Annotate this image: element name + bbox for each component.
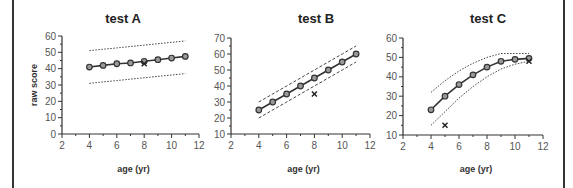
data-point <box>114 61 120 67</box>
x-tick-label: 2 <box>59 140 65 151</box>
y-tick-label: 60 <box>214 49 226 60</box>
charts-canvas: test A010203040506024681012age (yr)raw s… <box>0 0 573 188</box>
x-tick-label: 8 <box>484 141 490 152</box>
data-point <box>298 83 304 89</box>
y-tick-label: 50 <box>45 47 57 58</box>
data-point <box>256 107 262 113</box>
y-tick-label: 60 <box>45 31 57 42</box>
y-tick-label: 60 <box>386 33 398 44</box>
x-tick-label: 10 <box>509 141 521 152</box>
x-tick-label: 4 <box>256 140 262 151</box>
x-tick-label: 4 <box>428 141 434 152</box>
data-point <box>353 51 359 57</box>
y-tick-label: 40 <box>45 63 57 74</box>
data-point <box>284 91 290 97</box>
x-tick-label: 12 <box>364 140 376 151</box>
x-marker <box>443 123 448 128</box>
data-point <box>512 57 518 63</box>
chart-b: test B1020304050607024681012age (yr) <box>214 11 376 174</box>
data-point <box>326 67 332 73</box>
y-tick-label: 20 <box>214 113 226 124</box>
y-tick-label: 10 <box>45 112 57 123</box>
data-point <box>155 57 161 63</box>
x-tick-label: 6 <box>114 140 120 151</box>
mean-line <box>431 58 529 109</box>
y-tick-label: 40 <box>214 81 226 92</box>
y-tick-label: 20 <box>386 110 398 121</box>
data-point <box>428 107 434 113</box>
bound-line <box>89 74 185 84</box>
data-point <box>183 54 189 60</box>
bound-line <box>89 41 185 51</box>
y-tick-label: 50 <box>386 52 398 63</box>
chart-title: test B <box>298 11 334 26</box>
x-tick-label: 6 <box>456 141 462 152</box>
x-tick-label: 2 <box>228 140 234 151</box>
x-tick-label: 8 <box>141 140 147 151</box>
data-point <box>498 58 504 64</box>
x-tick-label: 12 <box>193 140 205 151</box>
bound-line <box>259 62 356 118</box>
data-point <box>169 55 175 61</box>
x-tick-label: 10 <box>166 140 178 151</box>
x-tick-label: 10 <box>337 140 349 151</box>
data-point <box>87 64 93 70</box>
x-tick-label: 2 <box>400 141 406 152</box>
y-tick-label: 20 <box>45 96 57 107</box>
data-point <box>128 60 134 66</box>
x-tick-label: 8 <box>312 140 318 151</box>
bound-line <box>259 46 356 102</box>
y-tick-label: 30 <box>386 91 398 102</box>
data-point <box>470 72 476 78</box>
x-tick-label: 12 <box>537 141 549 152</box>
y-tick-label: 0 <box>50 129 56 140</box>
data-point <box>442 93 448 99</box>
x-marker <box>312 92 317 97</box>
data-point <box>312 75 318 81</box>
x-axis-label: age (yr) <box>287 164 320 174</box>
chart-title: test A <box>105 11 141 26</box>
y-tick-label: 70 <box>214 33 226 44</box>
data-point <box>456 82 462 88</box>
x-tick-label: 6 <box>284 140 290 151</box>
data-point <box>100 63 106 69</box>
y-tick-label: 50 <box>214 65 226 76</box>
chart-c: test C10203040506024681012age (yr) <box>386 11 549 174</box>
data-point <box>339 59 345 65</box>
y-tick-label: 30 <box>214 97 226 108</box>
x-tick-label: 4 <box>87 140 93 151</box>
y-tick-label: 30 <box>45 80 57 91</box>
chart-a: test A010203040506024681012age (yr)raw s… <box>29 11 205 174</box>
x-axis-label: age (yr) <box>460 164 493 174</box>
y-axis-label: raw score <box>29 64 39 106</box>
data-point <box>484 64 490 70</box>
y-tick-label: 10 <box>386 130 398 141</box>
data-point <box>270 99 276 105</box>
y-tick-label: 40 <box>386 71 398 82</box>
x-axis-label: age (yr) <box>117 164 150 174</box>
chart-title: test C <box>470 11 507 26</box>
y-tick-label: 10 <box>214 129 226 140</box>
